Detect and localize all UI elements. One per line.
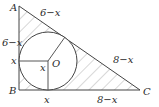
label-ac-upper: 6−x — [40, 7, 61, 18]
label-bc-left: x — [44, 94, 50, 105]
label-bc-right: 8−x — [97, 94, 118, 105]
label-radius-x: x — [40, 62, 46, 73]
label-b: B — [8, 85, 16, 96]
label-ab-upper: 6−x — [2, 37, 23, 48]
label-a: A — [9, 2, 17, 13]
label-c: C — [143, 86, 151, 97]
label-ab-lower: x — [11, 55, 17, 66]
label-o: O — [52, 58, 60, 69]
triangle-incircle-diagram: A B C O 6−x 6−x x x x 8−x 8−x — [0, 0, 159, 107]
label-ac-lower: 8−x — [113, 54, 134, 65]
